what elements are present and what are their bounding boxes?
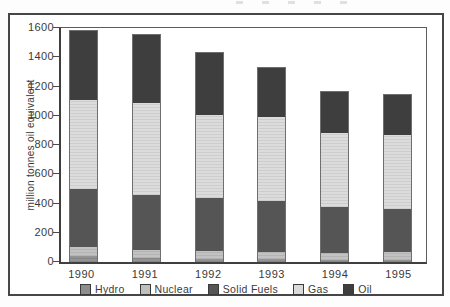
chart-frame: million tonnes oil equivalent 0200400600… <box>8 13 444 296</box>
segment-nuclear <box>321 253 348 260</box>
y-tick-label: 400 <box>34 198 54 209</box>
y-axis-labels: 02004006008001000120014001600 <box>10 28 54 263</box>
y-tick-label: 1200 <box>28 81 54 92</box>
y-tick <box>53 173 59 174</box>
segment-nuclear <box>196 251 223 259</box>
legend: HydroNuclearSolid FuelsGasOil <box>10 283 442 295</box>
plot-area <box>59 27 427 264</box>
segment-gas <box>196 115 223 198</box>
legend-item-hydro: Hydro <box>80 283 125 295</box>
y-tick <box>53 144 59 145</box>
legend-swatch-oil <box>343 284 354 295</box>
segment-nuclear <box>384 252 411 260</box>
legend-label: Oil <box>358 283 372 295</box>
legend-label: Solid Fuels <box>223 283 278 295</box>
legend-label: Gas <box>308 283 328 295</box>
legend-label: Hydro <box>95 283 125 295</box>
segment-solid-fuels <box>196 198 223 251</box>
x-label-1992: 1992 <box>194 268 223 280</box>
legend-swatch-nuclear <box>140 284 151 295</box>
stacked-bar-1990 <box>69 30 98 262</box>
stacked-bar-1992 <box>195 52 224 262</box>
y-tick-label: 1600 <box>28 22 54 33</box>
legend-label: Nuclear <box>155 283 193 295</box>
x-label-1990: 1990 <box>67 268 96 280</box>
y-tick-label: 800 <box>34 139 54 150</box>
segment-gas <box>133 103 160 196</box>
legend-item-solid-fuels: Solid Fuels <box>208 283 278 295</box>
segment-oil <box>384 95 411 134</box>
segment-hydro <box>321 260 348 262</box>
y-tick <box>53 232 59 233</box>
segment-hydro <box>258 259 285 262</box>
x-label-1993: 1993 <box>257 268 286 280</box>
legend-item-oil: Oil <box>343 283 372 295</box>
segment-gas <box>258 117 285 202</box>
segment-solid-fuels <box>133 195 160 249</box>
y-tick <box>53 261 59 262</box>
segment-gas <box>384 135 411 209</box>
x-axis-labels: 199019911992199319941995 <box>59 268 427 280</box>
segment-hydro <box>70 256 97 262</box>
y-tick-label: 1000 <box>28 110 54 121</box>
y-tick-label: 200 <box>34 227 54 238</box>
bars-row <box>61 28 426 262</box>
x-label-1994: 1994 <box>321 268 350 280</box>
segment-hydro <box>384 260 411 262</box>
legend-swatch-solid-fuels <box>208 284 219 295</box>
segment-gas <box>321 133 348 208</box>
legend-swatch-gas <box>293 284 304 295</box>
segment-nuclear <box>258 252 285 259</box>
stacked-bar-1993 <box>257 67 286 262</box>
segment-oil <box>70 31 97 100</box>
segment-solid-fuels <box>258 201 285 251</box>
y-tick-label: 600 <box>34 168 54 179</box>
legend-swatch-hydro <box>80 284 91 295</box>
segment-hydro <box>133 258 160 262</box>
legend-item-nuclear: Nuclear <box>140 283 193 295</box>
legend-item-gas: Gas <box>293 283 328 295</box>
segment-oil <box>321 92 348 133</box>
stacked-bar-1991 <box>132 34 161 262</box>
segment-hydro <box>196 259 223 262</box>
y-tick <box>53 86 59 87</box>
segment-nuclear <box>70 247 97 256</box>
x-label-1995: 1995 <box>384 268 413 280</box>
stacked-bar-1995 <box>383 94 412 262</box>
segment-solid-fuels <box>384 209 411 252</box>
segment-solid-fuels <box>321 207 348 252</box>
chart-page: million tonnes oil equivalent 0200400600… <box>0 0 450 307</box>
y-tick <box>53 203 59 204</box>
segment-oil <box>133 35 160 102</box>
segment-gas <box>70 100 97 189</box>
cropped-title-remnant <box>236 1 354 4</box>
y-tick <box>53 115 59 116</box>
y-tick-label: 1400 <box>28 51 54 62</box>
stacked-bar-1994 <box>320 91 349 262</box>
segment-oil <box>196 53 223 115</box>
segment-solid-fuels <box>70 189 97 248</box>
x-label-1991: 1991 <box>130 268 159 280</box>
segment-nuclear <box>133 250 160 258</box>
y-tick <box>53 27 59 28</box>
segment-oil <box>258 68 285 117</box>
y-tick <box>53 56 59 57</box>
